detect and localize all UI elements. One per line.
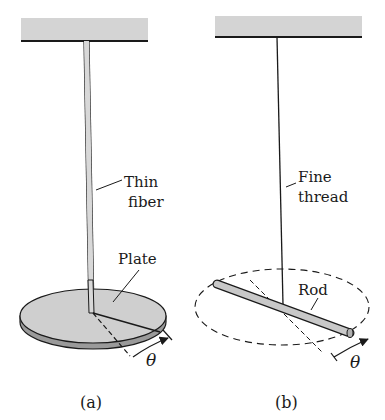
rod-label: Rod (298, 281, 328, 299)
ceiling-b (215, 16, 362, 37)
theta-label-b: θ (350, 352, 360, 372)
rod (217, 284, 353, 338)
fiber-label-line1: Thin (124, 173, 158, 191)
ceiling-a (21, 18, 148, 41)
plate (20, 280, 166, 356)
caption-b: (b) (275, 393, 298, 412)
panel-b: Fine thread Rod θ (b) (195, 16, 369, 412)
thread-label-line1: Fine (298, 168, 332, 186)
theta-label-a: θ (146, 350, 156, 370)
fiber-label-line2: fiber (128, 193, 164, 211)
thread-label-line2: thread (298, 188, 349, 206)
plate-label: Plate (118, 250, 157, 268)
caption-a: (a) (80, 393, 102, 412)
thin-fiber (84, 41, 94, 313)
panel-a: Thin fiber Plate θ (a) (20, 18, 172, 412)
fine-thread (277, 37, 283, 305)
torsion-pendulum-figure: Thin fiber Plate θ (a) Fine thread Rod θ… (0, 0, 385, 420)
